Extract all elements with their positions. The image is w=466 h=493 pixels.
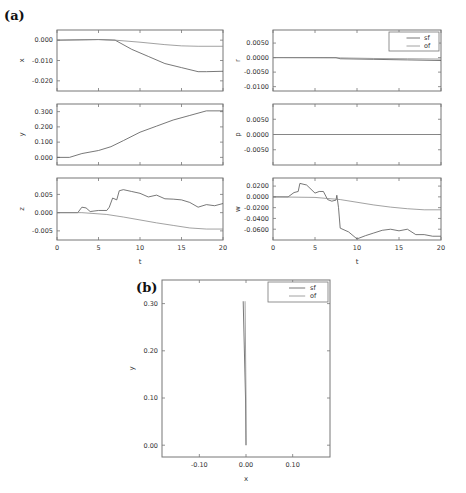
ytick-label: -0.0600 (244, 226, 269, 234)
ytick-label: -0.020 (32, 77, 53, 85)
plot-frame (57, 30, 223, 91)
ytick-label: -0.0100 (244, 83, 269, 91)
panel-b-label: (b) (136, 280, 157, 295)
subplot-w: 0.02000.0000-0.0200-0.0400-0.06000510152… (234, 178, 445, 266)
subplot-xy: 0.000.100.200.30-0.100.000.10yxsfof (128, 280, 330, 483)
xtick-label: -0.10 (191, 461, 208, 469)
ylabel: w (234, 206, 242, 212)
ytick-label: 0.00 (144, 442, 158, 450)
ytick-label: 0.005 (34, 191, 53, 199)
ytick-label: 0.000 (34, 209, 53, 217)
legend-box (389, 32, 439, 51)
xtick-label: 10 (136, 244, 144, 252)
ytick-label: 0.100 (34, 138, 53, 146)
xtick-label: 0 (55, 244, 59, 252)
xlabel: x (244, 475, 248, 483)
ylabel: y (128, 366, 136, 370)
ylabel: r (234, 59, 242, 62)
plot-frame (57, 178, 223, 240)
xtick-label: 20 (437, 244, 445, 252)
figure: (a) (b) 0.000-0.010-0.020x0.3000.2000.10… (0, 0, 466, 493)
ytick-label: 0.000 (34, 154, 53, 162)
panel-a-label: (a) (4, 8, 25, 23)
xtick-label: 5 (96, 244, 100, 252)
xtick-label: 20 (219, 244, 227, 252)
ytick-label: -0.0050 (244, 68, 269, 76)
ytick-label: 0.300 (34, 108, 53, 116)
ylabel: p (234, 132, 242, 137)
legend-box (268, 282, 328, 302)
xtick-label: 5 (313, 244, 317, 252)
legend-label-sf: sf (424, 34, 430, 42)
ytick-label: 0.0200 (246, 182, 269, 190)
ylabel: z (18, 207, 26, 211)
legend-label-of: of (310, 292, 317, 300)
ytick-label: 0.0050 (246, 116, 269, 124)
subplot-z: 0.0050.000-0.00505101520zt (18, 178, 227, 266)
xlabel: t (356, 258, 359, 266)
ytick-label: 0.0000 (246, 131, 269, 139)
subplot-r: 0.00500.0000-0.0050-0.0100rsfof (234, 30, 441, 91)
xtick-label: 0 (271, 244, 275, 252)
ytick-label: -0.005 (32, 227, 53, 235)
subplot-x: 0.000-0.010-0.020x (18, 30, 223, 91)
legend: sfof (389, 32, 439, 51)
ytick-label: 0.20 (144, 347, 158, 355)
xtick-label: 15 (177, 244, 185, 252)
ytick-label: 0.10 (144, 394, 158, 402)
ytick-label: 0.30 (144, 300, 158, 308)
ytick-label: -0.0050 (244, 146, 269, 154)
xtick-label: 0.10 (285, 461, 299, 469)
ytick-label: 0.0050 (246, 39, 269, 47)
subplot-p: 0.00500.0000-0.0050p (234, 104, 441, 165)
legend-label-sf: sf (310, 284, 316, 292)
xtick-label: 10 (353, 244, 361, 252)
ytick-label: 0.000 (34, 36, 53, 44)
ylabel: y (18, 132, 26, 136)
legend: sfof (268, 282, 328, 302)
subplot-y: 0.3000.2000.1000.000y (18, 104, 223, 165)
ytick-label: -0.0200 (244, 204, 269, 212)
ytick-label: 0.200 (34, 123, 53, 131)
xtick-label: 15 (395, 244, 403, 252)
legend-label-of: of (424, 42, 431, 50)
xtick-label: 0.00 (239, 461, 253, 469)
ytick-label: -0.010 (32, 57, 53, 65)
ytick-label: 0.0000 (246, 54, 269, 62)
ytick-label: 0.0000 (246, 193, 269, 201)
ytick-label: -0.0400 (244, 215, 269, 223)
ylabel: x (18, 58, 26, 62)
xlabel: t (139, 258, 142, 266)
